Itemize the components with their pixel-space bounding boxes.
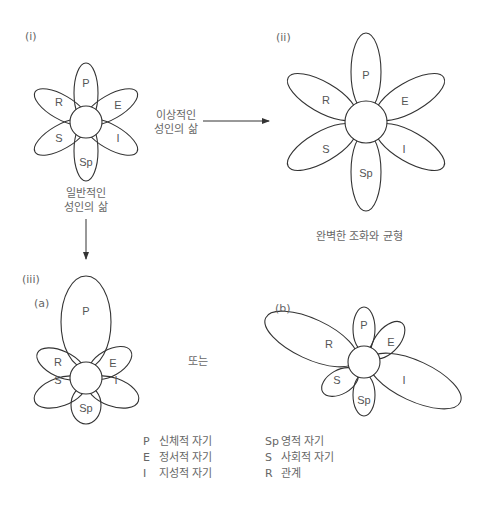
petal-label-e: E bbox=[114, 99, 121, 111]
petal-label-p: P bbox=[362, 69, 369, 81]
legend-key: R bbox=[265, 466, 281, 482]
petal-label-p: P bbox=[82, 305, 89, 317]
caption-line2: 성인의 삶 bbox=[56, 201, 116, 215]
legend-key: P bbox=[143, 434, 159, 450]
arrow-label-ideal: 이상적인 성인의 삶 bbox=[146, 109, 206, 137]
petal-label-r: R bbox=[325, 338, 333, 350]
panel-label-b: (b) bbox=[275, 302, 291, 316]
petal-label-i: I bbox=[402, 374, 405, 386]
legend-item-sp: Sp영적 자기 bbox=[265, 434, 335, 450]
flower-ideal bbox=[281, 33, 452, 211]
arrow-label-line1: 이상적인 bbox=[146, 109, 206, 123]
legend-item-e: E정서적 자기 bbox=[143, 450, 213, 466]
petal-label-r: R bbox=[55, 96, 63, 108]
petal-label-e: E bbox=[387, 336, 394, 348]
petal-label-s: S bbox=[55, 132, 62, 144]
legend-text: 정서적 자기 bbox=[159, 450, 213, 466]
petal-label-p: P bbox=[82, 77, 89, 89]
petal-label-p: P bbox=[360, 319, 367, 331]
legend-left: P신체적 자기 E정서적 자기 I지성적 자기 bbox=[143, 434, 213, 482]
legend-key: E bbox=[143, 450, 159, 466]
diagram-canvas: P Sp E I R S P Sp E I R S P Sp E I R S P… bbox=[0, 0, 477, 507]
petal-label-i: I bbox=[402, 143, 405, 155]
legend-text: 관계 bbox=[281, 466, 301, 482]
legend-item-p: P신체적 자기 bbox=[143, 434, 213, 450]
petal-label-s: S bbox=[54, 374, 61, 386]
legend-text: 지성적 자기 bbox=[159, 466, 213, 482]
petal-label-sp: Sp bbox=[79, 402, 92, 414]
panel-label-a: (a) bbox=[34, 297, 49, 311]
petal-p bbox=[61, 276, 111, 368]
petal-label-sp: Sp bbox=[357, 394, 370, 406]
petal-label-s: S bbox=[333, 374, 340, 386]
petal-label-r: R bbox=[54, 356, 62, 368]
legend-text: 신체적 자기 bbox=[159, 434, 213, 450]
legend-item-i: I지성적 자기 bbox=[143, 466, 213, 482]
petal-label-sp: Sp bbox=[359, 167, 372, 179]
legend-key: I bbox=[143, 466, 159, 482]
petal-label-s: S bbox=[322, 143, 329, 155]
panel-label-ii: (ii) bbox=[276, 31, 291, 45]
or-text: 또는 bbox=[188, 355, 208, 369]
panel-label-iii: (iii) bbox=[22, 273, 40, 287]
caption-line1: 일반적인 bbox=[56, 187, 116, 201]
caption-typical: 일반적인 성인의 삶 bbox=[56, 187, 116, 215]
legend-item-r: R관계 bbox=[265, 466, 335, 482]
legend-text: 영적 자기 bbox=[281, 434, 325, 450]
legend-item-s: S사회적 자기 bbox=[265, 450, 335, 466]
petal-label-sp: Sp bbox=[79, 156, 92, 168]
arrow-label-line2: 성인의 삶 bbox=[146, 123, 206, 137]
legend-text: 사회적 자기 bbox=[281, 450, 335, 466]
legend-right: Sp영적 자기 S사회적 자기 R관계 bbox=[265, 434, 335, 482]
petal-label-e: E bbox=[109, 357, 116, 369]
petal-label-e: E bbox=[401, 95, 408, 107]
legend-key: Sp bbox=[265, 434, 281, 450]
panel-label-i: (i) bbox=[25, 30, 37, 44]
petal-label-i: I bbox=[116, 132, 119, 144]
legend-key: S bbox=[265, 450, 281, 466]
petal-label-i: I bbox=[114, 374, 117, 386]
caption-ideal: 완벽한 조화와 균형 bbox=[316, 230, 403, 244]
petal-label-r: R bbox=[322, 94, 330, 106]
